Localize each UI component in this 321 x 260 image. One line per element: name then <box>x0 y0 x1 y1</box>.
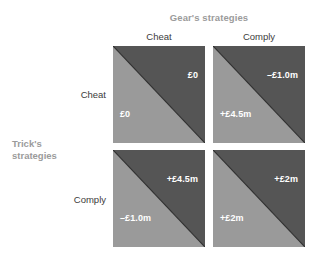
payoff-column-player: +£2m <box>274 174 298 184</box>
cell-split-graphic <box>213 150 305 247</box>
row-group-title: Trick's strategies <box>12 138 98 161</box>
row-header-comply: Comply <box>44 194 106 205</box>
payoff-row-player: –£1.0m <box>120 213 151 223</box>
column-group-title: Gear's strategies <box>113 12 305 23</box>
payoff-column-player: £0 <box>188 70 198 80</box>
payoff-column-player: –£1.0m <box>267 70 298 80</box>
row-group-title-line-2: strategies <box>12 150 98 162</box>
payoff-row-player: £0 <box>120 109 130 119</box>
payoff-column-player: +£4.5m <box>167 174 198 184</box>
payoff-row-player: +£4.5m <box>220 109 251 119</box>
matrix-cell-cheat-cheat: £0 £0 <box>113 46 205 143</box>
payoff-row-player: +£2m <box>220 213 244 223</box>
column-header-comply: Comply <box>213 31 305 42</box>
row-header-cheat: Cheat <box>44 89 106 100</box>
cell-split-graphic <box>113 150 205 247</box>
row-group-title-line-1: Trick's <box>12 138 98 150</box>
cell-split-graphic <box>113 46 205 143</box>
matrix-cell-comply-cheat: +£4.5m –£1.0m <box>113 150 205 247</box>
matrix-cell-cheat-comply: –£1.0m +£4.5m <box>213 46 305 143</box>
cell-split-graphic <box>213 46 305 143</box>
matrix-cell-comply-comply: +£2m +£2m <box>213 150 305 247</box>
column-header-cheat: Cheat <box>113 31 205 42</box>
